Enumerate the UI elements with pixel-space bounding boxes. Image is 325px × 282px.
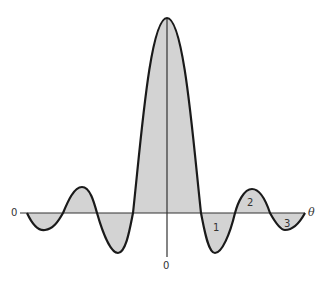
region-label-1: 1 xyxy=(213,223,219,233)
theta-axis-label: θ xyxy=(308,207,315,218)
shaded-area xyxy=(27,18,305,253)
region-label-2: 2 xyxy=(247,198,253,208)
region-label-3: 3 xyxy=(284,219,290,229)
left-zero-label: 0 xyxy=(11,208,17,218)
bottom-zero-label: 0 xyxy=(163,261,169,271)
diagram-canvas xyxy=(0,0,325,282)
